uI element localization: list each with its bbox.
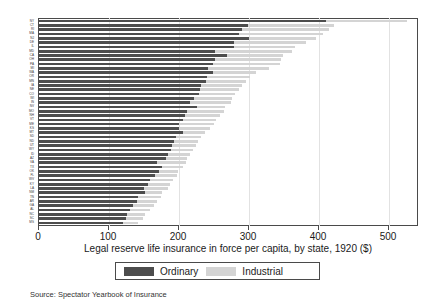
bar-segment-ordinary [39, 114, 185, 117]
bar-segment-industrial [126, 217, 143, 220]
bar-segment-ordinary [39, 170, 159, 173]
bar-segment-ordinary [39, 37, 249, 40]
bar-segment-ordinary [39, 191, 145, 194]
bar-segment-ordinary [39, 76, 207, 79]
x-axis-tick-mark [38, 226, 39, 230]
bar-segment-industrial [201, 84, 242, 87]
bar-row [39, 196, 161, 199]
bar-segment-ordinary [39, 54, 227, 57]
bar-segment-industrial [138, 196, 160, 199]
bar-segment-ordinary [39, 161, 157, 164]
bar-row [39, 204, 154, 207]
bar-segment-ordinary [39, 222, 123, 225]
bar-segment-ordinary [39, 24, 248, 27]
bar-segment-ordinary [39, 200, 137, 203]
bar-segment-industrial [168, 153, 190, 156]
bar-segment-ordinary [39, 183, 148, 186]
plot-area [38, 18, 418, 226]
x-axis-tick-mark [388, 226, 389, 230]
bar-row [39, 28, 329, 31]
x-axis-tick-label: 400 [310, 231, 327, 242]
x-axis-tick-mark [108, 226, 109, 230]
bar-segment-ordinary [39, 41, 234, 44]
bar-row [39, 213, 145, 216]
legend-label-ordinary: Ordinary [160, 266, 198, 277]
bar-segment-industrial [166, 157, 187, 160]
bar-row [39, 24, 334, 27]
bar-row [39, 166, 183, 169]
y-axis-tick-label: MS [29, 221, 34, 224]
bar-row [39, 88, 239, 91]
bar-segment-industrial [179, 123, 214, 126]
bar-segment-ordinary [39, 204, 133, 207]
bar-row [39, 183, 170, 186]
bar-segment-ordinary [39, 71, 213, 74]
bar-segment-industrial [249, 37, 316, 40]
y-axis-tick-label: VA [30, 161, 34, 164]
bar-row [39, 93, 235, 96]
bar-segment-industrial [197, 106, 225, 109]
bar-row [39, 123, 214, 126]
bar-segment-industrial [123, 222, 138, 225]
bar-segment-ordinary [39, 58, 215, 61]
legend-swatch-industrial-icon [206, 267, 236, 276]
bar-row [39, 50, 292, 53]
bar-segment-ordinary [39, 196, 138, 199]
legend-entry-industrial: Industrial [206, 266, 283, 277]
bar-row [39, 80, 246, 83]
x-axis-tick-label: 200 [170, 231, 187, 242]
bar-segment-industrial [174, 140, 198, 143]
y-axis-tick-label: IL [31, 45, 34, 48]
bar-segment-ordinary [39, 97, 194, 100]
bar-segment-industrial [185, 114, 220, 117]
bar-row [39, 54, 283, 57]
bar-row [39, 41, 306, 44]
bar-segment-industrial [199, 93, 235, 96]
bar-segment-ordinary [39, 166, 162, 169]
bar-segment-industrial [215, 50, 292, 53]
bar-row [39, 67, 269, 70]
y-axis-tick-label: OR [29, 75, 34, 78]
bar-segment-ordinary [39, 187, 144, 190]
bar-segment-ordinary [39, 157, 166, 160]
bar-row [39, 76, 250, 79]
bar-segment-industrial [242, 28, 329, 31]
chart-legend: Ordinary Industrial [115, 262, 320, 280]
x-axis-tick-mark [248, 226, 249, 230]
bar-row [39, 209, 150, 212]
bar-segment-ordinary [39, 84, 201, 87]
bar-segment-industrial [215, 58, 281, 61]
bar-row [39, 149, 193, 152]
bar-segment-industrial [234, 41, 307, 44]
bar-row [39, 157, 187, 160]
bar-segment-industrial [130, 209, 150, 212]
bar-segment-ordinary [39, 127, 179, 130]
bar-row [39, 20, 407, 23]
chart-figure: NYCTRIMANJDEILMDCAOHPAMIWAORMNIANECOWIIN… [0, 0, 428, 308]
y-axis-tick-label: NM [29, 191, 34, 194]
y-axis-tick-label: WY [29, 148, 34, 151]
bar-row [39, 127, 210, 130]
bar-row [39, 131, 205, 134]
bar-segment-industrial [183, 119, 217, 122]
bar-segment-ordinary [39, 144, 172, 147]
bar-segment-industrial [234, 46, 296, 49]
bar-segment-ordinary [39, 33, 239, 36]
bar-row [39, 170, 178, 173]
bar-segment-industrial [200, 88, 239, 91]
bar-segment-industrial [145, 191, 162, 194]
bar-segment-industrial [127, 213, 145, 216]
bar-row [39, 140, 198, 143]
bar-segment-industrial [162, 166, 183, 169]
bar-segment-ordinary [39, 80, 206, 83]
y-axis-tick-label: VT [30, 118, 34, 121]
legend-label-industrial: Industrial [242, 266, 283, 277]
bar-segment-ordinary [39, 93, 199, 96]
bar-segment-industrial [150, 179, 174, 182]
x-axis-tick-label: 0 [35, 231, 41, 242]
x-axis-tick-mark [318, 226, 319, 230]
bar-segment-industrial [213, 71, 256, 74]
source-note: Source: Spectator Yearbook of Insurance [30, 290, 167, 299]
bar-row [39, 101, 231, 104]
bar-segment-industrial [208, 67, 268, 70]
